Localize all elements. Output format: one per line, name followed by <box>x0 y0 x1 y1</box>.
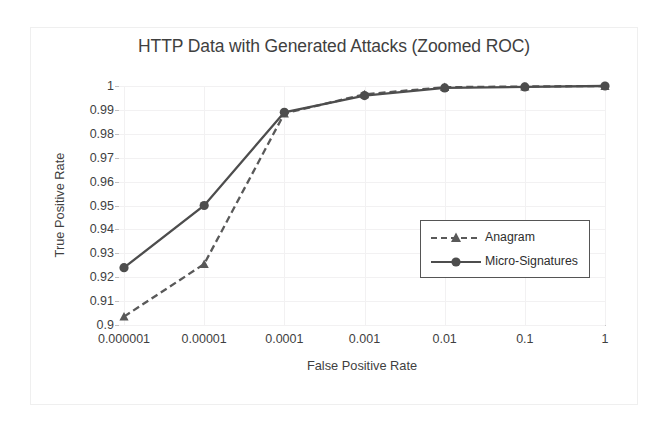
y-tick-label: 0.93 <box>68 246 114 260</box>
y-tick-label: 0.95 <box>68 199 114 213</box>
data-point-marker <box>600 81 609 90</box>
data-point-marker <box>200 259 209 268</box>
x-tick-label: 1 <box>602 332 609 346</box>
y-tick-label: 0.92 <box>68 270 114 284</box>
legend-label-micro-signatures: Micro-Signatures <box>485 254 578 268</box>
gridline-horizontal <box>119 325 605 326</box>
y-tick-mark <box>115 253 119 254</box>
y-tick-mark <box>115 86 119 87</box>
y-tick-mark <box>115 229 119 230</box>
data-point-marker <box>440 83 449 92</box>
y-tick-mark <box>115 134 119 135</box>
series-line-anagram <box>124 86 605 317</box>
y-tick-label: 0.91 <box>68 294 114 308</box>
x-tick-label: 0.00001 <box>182 332 227 346</box>
legend-label-anagram: Anagram <box>485 230 535 244</box>
y-tick-mark <box>115 158 119 159</box>
data-point-marker <box>200 201 209 210</box>
y-tick-label: 0.9 <box>68 318 114 332</box>
y-tick-mark <box>115 110 119 111</box>
x-axis-tick-labels: 0.0000010.000010.00010.0010.010.11 <box>119 332 605 352</box>
y-tick-label: 1 <box>68 79 114 93</box>
x-axis-title: False Positive Rate <box>119 358 605 373</box>
legend-item-micro-signatures[interactable]: Micro-Signatures <box>427 252 587 272</box>
y-tick-mark <box>115 301 119 302</box>
data-point-marker <box>360 91 369 100</box>
chart-screenshot: HTTP Data with Generated Attacks (Zoomed… <box>0 0 670 425</box>
y-tick-label: 0.96 <box>68 175 114 189</box>
data-point-marker <box>280 108 289 117</box>
y-axis-title: True Positive Rate <box>52 125 67 285</box>
gridline-vertical <box>605 86 606 325</box>
chart-legend: Anagram Micro-Signatures <box>420 220 590 278</box>
chart-title: HTTP Data with Generated Attacks (Zoomed… <box>30 36 638 57</box>
data-point-marker <box>520 82 529 91</box>
y-tick-label: 0.99 <box>68 103 114 117</box>
x-tick-label: 0.001 <box>349 332 380 346</box>
legend-sample-solid-circle <box>429 252 483 272</box>
y-tick-mark <box>115 182 119 183</box>
x-tick-label: 0.1 <box>516 332 533 346</box>
x-tick-label: 0.0001 <box>265 332 303 346</box>
y-tick-mark <box>115 325 119 326</box>
y-tick-mark <box>115 206 119 207</box>
y-tick-label: 0.94 <box>68 222 114 236</box>
legend-item-anagram[interactable]: Anagram <box>427 228 587 248</box>
data-point-marker <box>119 263 128 272</box>
legend-sample-dashed-triangle <box>429 228 483 248</box>
y-tick-label: 0.97 <box>68 151 114 165</box>
x-tick-label: 0.01 <box>432 332 456 346</box>
x-tick-label: 0.000001 <box>98 332 150 346</box>
y-tick-label: 0.98 <box>68 127 114 141</box>
plot-area <box>119 86 605 325</box>
y-tick-mark <box>115 277 119 278</box>
y-axis-tick-labels: 10.990.980.970.960.950.940.930.920.910.9 <box>66 86 114 325</box>
series-layer <box>119 86 605 325</box>
